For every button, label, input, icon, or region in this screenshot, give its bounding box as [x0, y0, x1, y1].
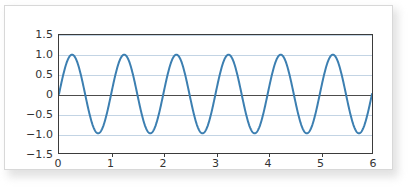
- sine-curve-path: [59, 55, 372, 134]
- x-axis-tick-label: 1: [107, 157, 114, 170]
- plot-area: [59, 35, 372, 153]
- plot-frame: [58, 34, 373, 154]
- y-axis-tick-label: −0.5: [26, 108, 53, 121]
- y-axis-tick-label: −1.0: [26, 128, 53, 141]
- y-axis-tick-label: 1.0: [35, 48, 53, 61]
- screenshot-canvas: 1.51.00.50−0.5−1.0−1.5 0123456: [0, 0, 411, 191]
- y-axis-tick-label: 0: [46, 88, 53, 101]
- x-axis-tick-label: 3: [212, 157, 219, 170]
- sine-curve: [59, 35, 372, 153]
- x-axis-tick-label: 6: [370, 157, 377, 170]
- x-axis-tick-label: 5: [317, 157, 324, 170]
- y-axis-tick-label: 0.5: [35, 68, 53, 81]
- x-axis-tick-label: 2: [160, 157, 167, 170]
- y-axis-tick-label: −1.5: [26, 148, 53, 161]
- y-axis-tick-label: 1.5: [35, 28, 53, 41]
- figure-card: 1.51.00.50−0.5−1.0−1.5 0123456: [4, 5, 393, 170]
- x-axis-tick-label: 0: [55, 157, 62, 170]
- y-axis-tick-labels: 1.51.00.50−0.5−1.0−1.5: [5, 34, 53, 154]
- x-axis-tick-labels: 0123456: [58, 157, 373, 173]
- x-axis-tick-label: 4: [265, 157, 272, 170]
